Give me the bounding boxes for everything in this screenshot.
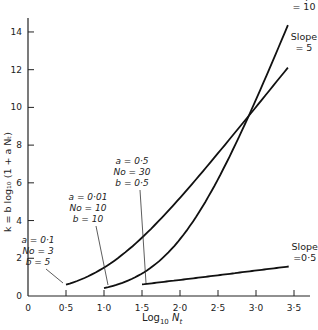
axes [28,18,310,296]
x-tick-label: 3·5 [287,303,301,313]
x-tick-label: 0·5 [59,303,73,313]
leader-line [140,190,146,283]
y-tick-label: 2 [16,253,22,263]
slope-label: Slope= 10 [291,0,318,12]
curve-series-0 [66,68,288,285]
x-tick-label: 3·0 [249,303,264,313]
y-tick-label: 4 [16,216,22,226]
y-tick-label: 10 [11,102,23,112]
slope-label: Slope= 5 [291,31,318,53]
parameter-annotation: a = 0·1No = 3b = 5 [21,235,54,267]
x-tick-label: 1·0 [97,303,112,313]
curve-series-2 [142,267,289,285]
y-tick-label: 0 [16,291,22,301]
annotation-labels: Slope= 5Slope= 10Slope=0·5a = 0·1No = 3b… [21,0,318,267]
data-curves [66,25,289,288]
leader-line [46,269,63,283]
y-tick-label: 12 [11,65,22,75]
y-tick-label: 14 [11,27,23,37]
parameter-annotation: a = 0·01No = 10b = 10 [69,192,108,224]
x-tick-label: 0 [25,303,31,313]
slope-label: Slope=0·5 [292,241,318,263]
x-axis-label: Log10 Nt [142,312,182,326]
y-tick-label: 8 [16,140,22,150]
x-tick-label: 2·5 [211,303,225,313]
leader-line [96,226,108,285]
y-tick-label: 6 [16,178,22,188]
chart: 00·51·01·52·02·53·03·502468101214 Slope=… [0,0,318,330]
y-axis-label: k = b log₁₀ (1 + a Nₜ) [2,132,13,232]
parameter-annotation: a = 0·5No = 30b = 0·5 [114,156,151,188]
